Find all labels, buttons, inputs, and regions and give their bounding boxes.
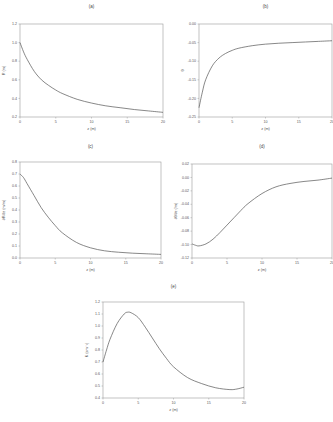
y-tick-label: -0.15: [188, 78, 196, 82]
x-tick-label: 15: [124, 261, 128, 265]
y-tick-label: 0.5: [12, 196, 17, 200]
y-tick-label: 0.8: [12, 59, 17, 63]
y-axis-label: ∂θ/∂z (/m): [174, 202, 178, 219]
x-tick-label: 20: [161, 120, 165, 124]
y-axis-label: R (m): [2, 65, 6, 75]
x-tick-label: 15: [207, 401, 211, 405]
chart-title: (e): [171, 284, 177, 289]
y-tick-label: -0.10: [188, 59, 196, 63]
y-tick-label: 1.0: [95, 324, 100, 328]
y-axis-label: θ: [181, 69, 185, 71]
y-tick-label: 0.8: [12, 160, 17, 164]
x-tick-label: 20: [159, 261, 163, 265]
y-tick-label: 0.5: [95, 384, 100, 388]
y-tick-label: 1.2: [95, 300, 100, 304]
x-axis-label: z (m): [261, 127, 270, 131]
data-series-line: [103, 312, 244, 390]
x-tick-label: 5: [54, 261, 56, 265]
chart-title: (a): [89, 4, 95, 9]
y-tick-label: 0.00: [182, 176, 189, 180]
x-tick-label: 10: [264, 120, 268, 124]
x-tick-label: 5: [226, 261, 228, 265]
chart-panel-c: (c)051015200.00.10.20.30.40.50.60.70.8z …: [0, 140, 170, 280]
y-tick-label: 0.4: [12, 208, 17, 212]
y-tick-label: -0.20: [188, 97, 196, 101]
x-tick-label: 0: [198, 120, 200, 124]
y-tick-label: 0.00: [189, 22, 196, 26]
x-axis-label: z (m): [258, 268, 267, 272]
plot-frame: [199, 24, 332, 117]
y-tick-label: -0.25: [188, 115, 196, 119]
y-tick-label: 0.4: [95, 396, 100, 400]
y-tick-label: 0.3: [12, 220, 17, 224]
x-tick-label: 5: [231, 120, 233, 124]
x-tick-label: 0: [19, 120, 21, 124]
y-tick-label: 0.9: [95, 336, 100, 340]
x-tick-label: 10: [260, 261, 264, 265]
x-axis-label: z (m): [87, 127, 96, 131]
y-tick-label: -0.08: [181, 229, 189, 233]
y-tick-label: -0.12: [181, 256, 189, 260]
chart-panel-d: (d)05101520-0.12-0.10-0.08-0.06-0.04-0.0…: [167, 140, 333, 280]
y-tick-label: 0.8: [95, 348, 100, 352]
y-axis-label: ∂R/∂z (m/m): [2, 199, 6, 220]
x-tick-label: 15: [297, 120, 301, 124]
y-tick-label: 0.4: [12, 97, 17, 101]
x-tick-label: 5: [55, 120, 57, 124]
y-tick-label: -0.05: [188, 41, 196, 45]
x-tick-label: 5: [137, 401, 139, 405]
y-axis-label: K (sm⁻¹): [85, 342, 89, 357]
y-tick-label: 0.2: [12, 232, 17, 236]
y-tick-label: 0.0: [12, 256, 17, 260]
x-tick-label: 0: [191, 261, 193, 265]
chart-title: (c): [88, 144, 94, 149]
data-series-line: [192, 178, 332, 246]
x-axis-label: z (m): [86, 268, 95, 272]
y-tick-label: 0.6: [12, 78, 17, 82]
x-axis-label: z (m): [169, 408, 178, 412]
y-tick-label: 1.1: [95, 312, 100, 316]
data-series-line: [20, 174, 161, 254]
y-tick-label: -0.04: [181, 202, 189, 206]
y-tick-label: 0.7: [95, 360, 100, 364]
y-tick-label: 0.7: [12, 172, 17, 176]
x-tick-label: 0: [102, 401, 104, 405]
y-tick-label: -0.02: [181, 189, 189, 193]
x-tick-label: 10: [172, 401, 176, 405]
x-tick-label: 15: [125, 120, 129, 124]
plot-frame: [103, 302, 244, 398]
y-tick-label: -0.06: [181, 216, 189, 220]
chart-panel-b: (b)05101520-0.25-0.20-0.15-0.10-0.050.00…: [167, 0, 333, 140]
y-tick-label: 1.0: [12, 41, 17, 45]
plot-frame: [20, 162, 161, 258]
x-tick-label: 10: [90, 120, 94, 124]
x-tick-label: 10: [89, 261, 93, 265]
y-tick-label: 1.2: [12, 22, 17, 26]
x-tick-label: 20: [242, 401, 246, 405]
data-series-line: [20, 43, 163, 113]
chart-title: (d): [259, 144, 265, 149]
y-tick-label: -0.10: [181, 243, 189, 247]
chart-panel-a: (a)051015200.20.40.60.81.01.2z (m)R (m): [0, 0, 170, 140]
data-series-line: [199, 41, 332, 108]
y-tick-label: 0.1: [12, 244, 17, 248]
y-tick-label: 0.2: [12, 115, 17, 119]
y-tick-label: 0.02: [182, 162, 189, 166]
plot-frame: [192, 164, 332, 258]
y-tick-label: 0.6: [12, 184, 17, 188]
chart-title: (b): [263, 4, 269, 9]
x-tick-label: 15: [295, 261, 299, 265]
chart-panel-e: (e)051015200.40.50.60.70.80.91.01.11.2z …: [70, 280, 270, 422]
x-tick-label: 0: [19, 261, 21, 265]
y-tick-label: 0.6: [95, 372, 100, 376]
